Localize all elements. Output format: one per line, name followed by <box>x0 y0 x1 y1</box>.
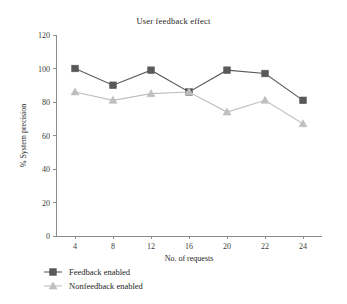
x-tick-label: 24 <box>299 242 307 251</box>
x-tick-label: 22 <box>261 242 269 251</box>
y-tick-label: 120 <box>38 31 50 40</box>
y-tick-label: 20 <box>42 199 50 208</box>
y-tick-label: 100 <box>38 65 50 74</box>
data-point <box>110 82 117 89</box>
y-tick-label: 0 <box>46 232 50 241</box>
legend-label: Nonfeedback enabled <box>69 281 144 291</box>
legend-item-2[interactable]: Nonfeedback enabled <box>44 281 144 291</box>
x-tick-label: 4 <box>73 242 77 251</box>
x-tick-label: 20 <box>223 242 231 251</box>
series-2 <box>71 88 307 127</box>
data-point <box>71 88 79 95</box>
data-point <box>148 67 155 74</box>
data-point <box>262 70 269 77</box>
legend-label: Feedback enabled <box>69 267 131 277</box>
y-tick-label: 60 <box>42 132 50 141</box>
x-tick-label: 16 <box>185 242 193 251</box>
x-tick-label: 8 <box>111 242 115 251</box>
y-tick-label: 80 <box>42 98 50 107</box>
x-tick-label: 12 <box>147 242 155 251</box>
chart-figure: User feedback effect 0204060801001204812… <box>0 0 347 304</box>
legend-item-1[interactable]: Feedback enabled <box>44 267 131 277</box>
series-line <box>75 92 303 124</box>
y-tick-label: 40 <box>42 165 50 174</box>
x-axis-title: No. of requests <box>165 254 214 263</box>
series-1 <box>72 65 307 103</box>
line-chart-plot: 020406080100120481216202224No. of reques… <box>0 0 347 304</box>
data-point <box>261 96 269 103</box>
y-axis-title: % System precision <box>19 104 28 168</box>
data-point <box>299 120 307 127</box>
data-point <box>72 65 79 72</box>
legend-marker <box>50 269 57 276</box>
data-point <box>224 67 231 74</box>
series-line <box>75 69 303 101</box>
data-point <box>300 97 307 104</box>
